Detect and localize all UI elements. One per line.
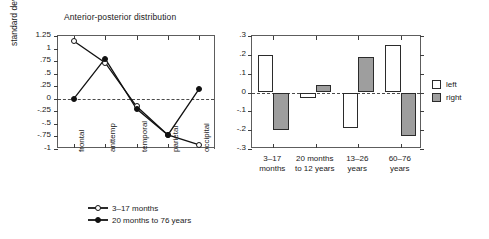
ap-legend-label-old: 20 months to 76 years bbox=[112, 216, 191, 225]
ap-y-tick-label: .75 bbox=[18, 55, 51, 64]
lat-y-tick-right bbox=[420, 111, 424, 112]
ap-y-tick-label: 0 bbox=[18, 93, 51, 102]
ap-y-tick-label: .5 bbox=[18, 68, 51, 77]
lat-bar-left bbox=[258, 55, 273, 93]
ap-data-point bbox=[102, 56, 108, 62]
lat-legend-label-right: right bbox=[446, 93, 462, 102]
ap-y-tick-label: 1.25 bbox=[18, 30, 51, 39]
ap-y-tick-label: 1 bbox=[18, 43, 51, 52]
lat-y-tick-label: 0 bbox=[222, 87, 246, 96]
ap-x-tick-label: frontal bbox=[77, 130, 86, 152]
lat-y-tick bbox=[248, 36, 252, 37]
lat-y-tick bbox=[248, 74, 252, 75]
ap-x-tick-label: parietal bbox=[171, 126, 180, 152]
ap-y-tick-label: -.25 bbox=[18, 105, 51, 114]
ap-x-tick-label: occipital bbox=[202, 123, 211, 152]
lat-x-tick-label: 60–76years bbox=[370, 154, 430, 174]
lat-y-tick-label: .1 bbox=[222, 68, 246, 77]
lat-plot-area bbox=[251, 35, 421, 148]
lat-bar-right bbox=[358, 57, 373, 93]
right-swatch-icon bbox=[432, 93, 441, 102]
lat-x-tick-bottom bbox=[358, 144, 359, 148]
lat-y-tick bbox=[248, 149, 252, 150]
lat-legend-label-left: left bbox=[446, 80, 457, 89]
ap-right-axis bbox=[214, 35, 215, 149]
lat-y-tick bbox=[248, 130, 252, 131]
lat-y-tick-right bbox=[420, 36, 424, 37]
ap-data-point bbox=[71, 38, 77, 44]
left-swatch-icon bbox=[432, 80, 441, 89]
lat-bar-right bbox=[401, 93, 416, 136]
lat-x-label-line1: 60–76 bbox=[370, 154, 430, 164]
ap-data-point bbox=[71, 96, 77, 102]
ap-y-tick-label: -1 bbox=[18, 143, 51, 152]
ap-data-point bbox=[134, 106, 140, 112]
ap-data-point bbox=[165, 132, 171, 138]
ap-y-axis-title: standard deviations bbox=[9, 0, 19, 46]
lat-y-tick-right bbox=[420, 55, 424, 56]
lat-x-tick-top bbox=[401, 36, 402, 40]
filled-circle-marker-icon bbox=[88, 215, 108, 225]
lat-y-tick-label: -.2 bbox=[222, 124, 246, 133]
lat-x-tick-bottom bbox=[316, 144, 317, 148]
lat-y-tick-label: -.3 bbox=[222, 143, 246, 152]
ap-y-tick bbox=[54, 149, 58, 150]
lat-x-tick-top bbox=[358, 36, 359, 40]
open-circle-marker-icon bbox=[88, 203, 108, 213]
lat-y-tick-right bbox=[420, 74, 424, 75]
lat-y-tick-label: .3 bbox=[222, 30, 246, 39]
lat-legend: left right bbox=[432, 78, 462, 104]
lat-x-tick-top bbox=[316, 36, 317, 40]
lat-x-tick-bottom bbox=[401, 144, 402, 148]
ap-legend-item-old: 20 months to 76 years bbox=[88, 214, 191, 226]
lat-legend-item-left: left bbox=[432, 78, 462, 91]
lat-y-tick-right bbox=[420, 93, 424, 94]
lat-y-tick-right bbox=[420, 130, 424, 131]
lat-y-tick-right bbox=[420, 149, 424, 150]
ap-x-tick-label: anttemp bbox=[108, 123, 117, 152]
lat-bar-right bbox=[273, 93, 288, 131]
lat-y-tick-label: .2 bbox=[222, 49, 246, 58]
lat-x-tick-bottom bbox=[273, 144, 274, 148]
lat-y-tick bbox=[248, 55, 252, 56]
ap-x-tick-label: temporal bbox=[140, 121, 149, 152]
lat-legend-item-right: right bbox=[432, 91, 462, 104]
ap-chart-title: Anterior-posterior distribution bbox=[64, 12, 176, 22]
ap-legend: 3–17 months 20 months to 76 years bbox=[88, 202, 191, 226]
ap-legend-label-young: 3–17 months bbox=[112, 204, 158, 213]
lat-y-tick bbox=[248, 111, 252, 112]
lat-x-label-line2: years bbox=[370, 164, 430, 174]
lat-bar-left bbox=[300, 93, 315, 99]
lat-y-tick-label: -.1 bbox=[222, 105, 246, 114]
ap-y-tick-label: .25 bbox=[18, 80, 51, 89]
lat-bar-left bbox=[385, 45, 400, 92]
ap-legend-item-young: 3–17 months bbox=[88, 202, 191, 214]
lat-x-tick-top bbox=[273, 36, 274, 40]
ap-y-tick-label: -.75 bbox=[18, 130, 51, 139]
lat-bar-left bbox=[343, 93, 358, 129]
lat-bar-right bbox=[316, 85, 331, 93]
ap-y-tick-label: -.5 bbox=[18, 118, 51, 127]
